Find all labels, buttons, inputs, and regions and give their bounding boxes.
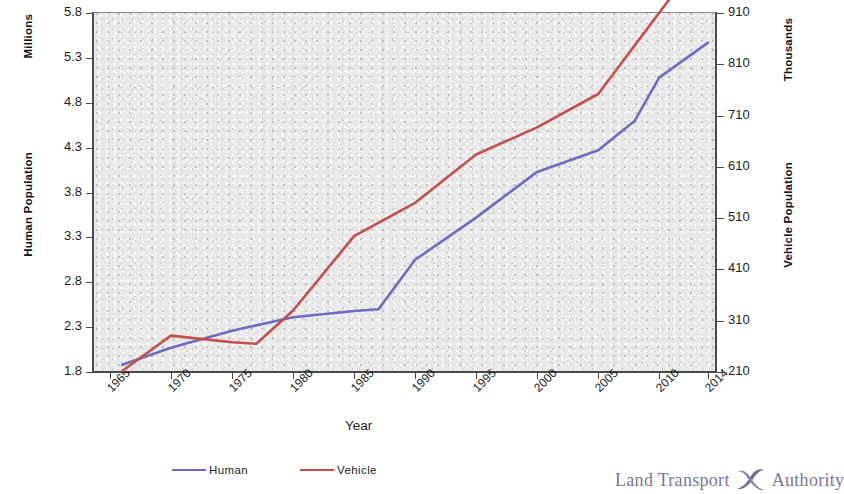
logo-text-left: Land Transport — [615, 470, 730, 491]
left-axis-tick — [86, 237, 93, 238]
plot-background-texture — [92, 13, 716, 372]
legend-swatch-vehicle — [300, 469, 334, 472]
left-axis-tick — [86, 58, 93, 59]
lta-swoosh-icon — [734, 467, 768, 493]
legend-item-human[interactable]: Human — [172, 462, 248, 478]
x-axis-title: Year — [345, 418, 372, 433]
left-axis-tick-label: 5.3 — [26, 49, 82, 64]
legend-label-human: Human — [209, 464, 248, 476]
left-axis-tick — [86, 372, 93, 373]
left-axis-tick-label: 4.3 — [26, 139, 82, 154]
right-axis-tick — [716, 116, 724, 117]
right-axis-tick-label: 210 — [728, 363, 750, 378]
right-axis-tick — [716, 13, 724, 14]
left-axis-tick — [86, 327, 93, 328]
right-axis-tick-label: 810 — [728, 55, 750, 70]
right-axis-tick-label: 910 — [728, 4, 750, 19]
right-axis-tick — [716, 269, 724, 270]
right-axis-tick-label: 610 — [728, 158, 750, 173]
right-axis-tick — [716, 167, 724, 168]
legend-item-vehicle[interactable]: Vehicle — [300, 462, 377, 478]
right-axis-tick — [716, 218, 724, 219]
left-axis-tick — [86, 148, 93, 149]
right-axis-tick-label: 710 — [728, 107, 750, 122]
left-axis-tick-label: 2.3 — [26, 318, 82, 333]
plot-top-border — [92, 12, 717, 13]
right-axis-tick-label: 510 — [728, 209, 750, 224]
logo-text-right: Authority — [772, 470, 844, 491]
right-axis-unit-label: Thousands — [782, 18, 794, 81]
right-axis-tick — [716, 321, 724, 322]
lta-logo: Land Transport Authority — [615, 466, 844, 494]
legend-label-vehicle: Vehicle — [337, 464, 377, 476]
right-axis-tick-label: 310 — [728, 312, 750, 327]
left-axis-tick-label: 3.3 — [26, 228, 82, 243]
left-axis-tick-label: 1.8 — [26, 363, 82, 378]
left-axis-tick-label: 3.8 — [26, 184, 82, 199]
left-axis-tick-label: 4.8 — [26, 94, 82, 109]
legend-swatch-human — [172, 469, 206, 472]
left-axis-tick-label: 5.8 — [26, 4, 82, 19]
left-axis-tick — [86, 103, 93, 104]
right-axis-title: Vehicle Population — [782, 162, 794, 268]
right-axis-line — [715, 12, 717, 373]
right-axis-tick-label: 410 — [728, 260, 750, 275]
left-axis-tick — [86, 193, 93, 194]
left-axis-tick — [86, 282, 93, 283]
left-axis-tick-label: 2.8 — [26, 273, 82, 288]
plot-area — [92, 13, 716, 372]
right-axis-tick — [716, 64, 724, 65]
left-axis-tick — [86, 13, 93, 14]
